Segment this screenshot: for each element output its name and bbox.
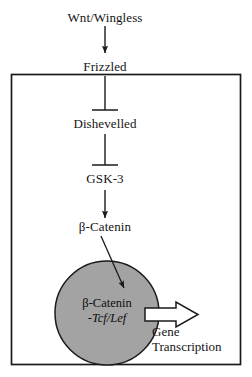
gene-transcription-label: Gene Transcription: [152, 324, 222, 355]
label-beta-catenin: β-Catenin: [79, 220, 131, 234]
nucleus-beta-catenin-text: β-Catenin: [59, 297, 155, 311]
wnt-pathway-diagram: Wnt/Wingless Frizzled Dishevelled GSK-3 …: [0, 0, 252, 377]
nucleus-tcf-lef-text: -Tcf/Lef: [59, 311, 155, 325]
gene-transcription-line-1: Gene: [152, 324, 222, 339]
label-frizzled: Frizzled: [83, 60, 126, 74]
label-gsk-3: GSK-3: [86, 172, 123, 186]
label-dishevelled: Dishevelled: [73, 117, 136, 131]
label-wnt-wingless: Wnt/Wingless: [67, 11, 142, 25]
nucleus-complex-label: β-Catenin -Tcf/Lef: [59, 297, 155, 325]
gene-transcription-line-2: Transcription: [152, 339, 222, 354]
